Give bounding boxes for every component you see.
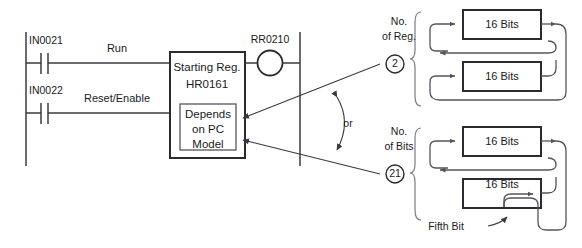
rung-label-reset-enable: Reset/Enable <box>84 92 150 104</box>
register-label-bits-2: 16 Bits <box>485 178 519 190</box>
output-coil-icon <box>258 51 283 76</box>
label-no-of-bits-line1: No. <box>391 125 407 137</box>
ladder-diagram <box>26 32 300 166</box>
rung-reset-enable <box>26 103 170 124</box>
diagram-canvas: IN0021 IN0022 Run Reset/Enable RR0210 St… <box>0 0 582 248</box>
value-no-of-bits: 21 <box>389 167 401 179</box>
route-bits-mid-return <box>440 158 556 170</box>
inner-note-line3: Model <box>192 138 223 150</box>
plc-register-allocation-diagram: IN0021 IN0022 Run Reset/Enable RR0210 St… <box>0 0 582 248</box>
inner-note-line1: Depends <box>185 108 231 120</box>
value-no-of-reg: 2 <box>392 57 398 69</box>
function-block-line2: HR0161 <box>186 78 228 90</box>
label-no-of-reg-line2: of Reg. <box>382 30 416 42</box>
callout-lines <box>243 64 380 174</box>
output-coil-tag: RR0210 <box>251 33 290 45</box>
callout-line-no-of-bits <box>243 140 380 174</box>
group-brace-reg <box>410 12 421 106</box>
contact-tag-in0021: IN0021 <box>29 34 63 46</box>
contact-in0022-icon <box>41 103 48 124</box>
route-reg-out-2 <box>541 60 556 76</box>
register-label-reg-1: 16 Bits <box>485 18 519 30</box>
route-reg-in-2 <box>430 76 455 100</box>
or-label: or <box>343 117 353 129</box>
label-no-of-reg-line1: No. <box>391 15 407 27</box>
function-block-line1: Starting Reg. <box>173 61 240 73</box>
fifth-bit-leader-line <box>488 217 507 226</box>
inner-note-line2: on PC <box>192 123 224 135</box>
route-bits-in-1 <box>430 141 455 168</box>
register-label-bits-1: 16 Bits <box>485 135 519 147</box>
route-reg-in-1 <box>430 24 455 51</box>
route-bits-out-2 <box>541 177 556 193</box>
rung-label-run: Run <box>107 42 127 54</box>
route-reg-mid-return <box>440 41 556 53</box>
label-no-of-bits-line2: of Bits <box>384 140 413 152</box>
register-label-reg-2: 16 Bits <box>485 70 519 82</box>
fifth-bit-annotation: Fifth Bit <box>428 220 464 232</box>
contact-in0021-icon <box>41 53 48 74</box>
contact-tag-in0022: IN0022 <box>29 84 63 96</box>
rung-run <box>26 53 170 74</box>
